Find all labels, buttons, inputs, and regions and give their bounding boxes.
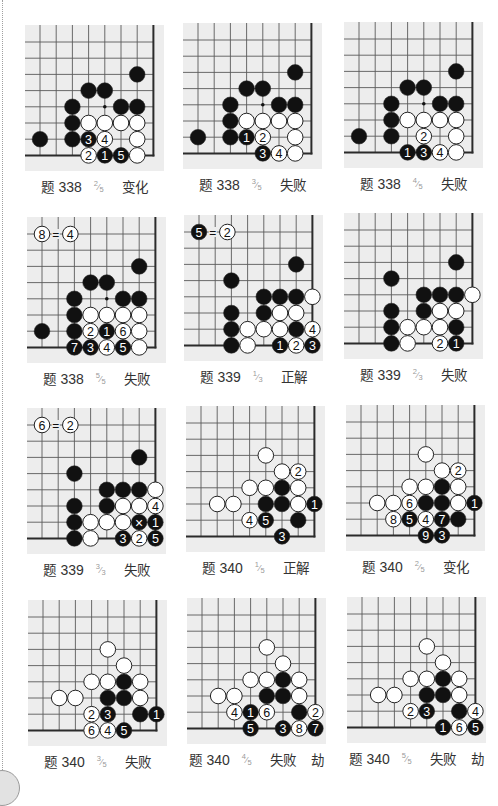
move-number: 2	[295, 465, 302, 479]
diagram-panel: 6=24×1325 题 339 3⁄3 失败	[27, 408, 166, 583]
diagram-caption: 题 340 4⁄5 失败 劫	[189, 751, 323, 769]
white-stone: 4	[418, 511, 434, 527]
white-stone	[450, 479, 466, 495]
equivalence-note: 8=4	[34, 226, 78, 242]
board-background	[187, 598, 326, 744]
white-stone	[432, 303, 448, 319]
problem-number: 338	[377, 175, 400, 193]
black-stone	[223, 97, 239, 113]
move-number: 3	[309, 339, 316, 353]
white-stone	[305, 289, 321, 305]
white-stone	[386, 495, 402, 511]
result-label: 失败	[124, 370, 150, 388]
black-stone	[132, 706, 148, 722]
white-stone: 2	[403, 703, 419, 719]
move-number: 1	[453, 337, 460, 351]
go-board: 21453	[186, 406, 325, 552]
black-stone	[65, 131, 81, 147]
diagram-caption: 题 339 3⁄3 失败	[43, 561, 149, 579]
move-number: 2	[293, 339, 300, 353]
black-stone	[451, 703, 467, 719]
black-stone	[131, 291, 147, 307]
move-number: 3	[420, 146, 427, 160]
diagram-caption: 题 338 4⁄5 失败	[360, 175, 466, 193]
move-number: 1	[103, 325, 110, 339]
diagram-panel: 34215 题 338 2⁄5 变化	[25, 25, 164, 200]
move-number: 8	[296, 722, 303, 736]
problem-number: 340	[61, 753, 84, 771]
white-stone: 4	[468, 703, 484, 719]
white-stone	[291, 688, 307, 704]
white-stone	[81, 115, 97, 131]
black-stone	[34, 323, 50, 339]
white-stone	[287, 129, 303, 145]
black-stone: 5	[116, 723, 132, 739]
move-number: 4	[67, 228, 74, 242]
go-board: 34215	[25, 25, 164, 171]
move-number: 5	[472, 721, 479, 735]
result-label: 失败	[125, 753, 151, 771]
white-stone	[239, 113, 255, 129]
move-number: 6	[120, 325, 127, 339]
problem-label: 题	[360, 175, 373, 193]
black-stone	[131, 259, 147, 275]
diagram-panel: 8=42167345 题 338 5⁄5 失败	[27, 217, 166, 392]
black-stone: 1	[239, 129, 255, 145]
move-number: 2	[224, 226, 231, 240]
white-stone: 4	[148, 498, 164, 514]
fraction-denominator: 5	[407, 753, 411, 771]
move-number: 5	[247, 722, 254, 736]
black-stone	[288, 257, 304, 273]
black-stone	[115, 482, 131, 498]
white-stone: 6	[451, 720, 467, 736]
black-stone	[67, 466, 83, 482]
white-stone	[271, 113, 287, 129]
go-board: 41625387	[187, 598, 326, 744]
go-board-svg: 6=24×1325	[27, 408, 166, 554]
variation-fraction: 2⁄5	[415, 558, 425, 576]
white-stone	[256, 321, 272, 337]
move-number: 4	[472, 705, 479, 719]
move-number: 1	[247, 706, 254, 720]
problem-number: 339	[217, 368, 240, 386]
black-stone: 3	[275, 721, 291, 737]
black-stone	[384, 96, 400, 112]
move-number: 4	[422, 513, 429, 527]
white-stone	[402, 479, 418, 495]
board-background	[347, 597, 486, 743]
white-stone	[131, 307, 147, 323]
go-board: 1234	[183, 23, 322, 169]
move-number: 4	[101, 133, 108, 147]
white-stone	[83, 307, 99, 323]
black-stone	[450, 511, 466, 527]
black-stone	[274, 480, 290, 496]
white-stone	[432, 319, 448, 335]
move-number: 3	[85, 133, 92, 147]
go-board-svg: 2134	[344, 22, 483, 168]
white-stone: 4	[242, 512, 258, 528]
black-stone	[223, 113, 239, 129]
black-stone	[129, 67, 145, 83]
problem-label: 题	[41, 178, 54, 196]
black-stone	[81, 83, 97, 99]
equals-sign: =	[209, 226, 216, 240]
black-stone: 1	[243, 704, 259, 720]
note-stone: 4	[63, 226, 79, 242]
black-stone	[290, 512, 306, 528]
black-stone	[287, 97, 303, 113]
white-stone: 4	[432, 145, 448, 161]
problem-number: 339	[60, 561, 83, 579]
fraction-denominator: 5	[101, 373, 105, 391]
move-number: 2	[136, 532, 143, 546]
white-stone	[434, 463, 450, 479]
white-stone	[416, 112, 432, 128]
diagram-panel: 5=24123 题 339 1⁄3 正解	[184, 215, 323, 390]
white-stone	[288, 305, 304, 321]
white-stone: 2	[255, 129, 271, 145]
white-stone	[243, 672, 259, 688]
fraction-numerator: 4	[413, 172, 417, 190]
variation-fraction: 3⁄5	[97, 753, 107, 771]
problem-label: 题	[43, 561, 56, 579]
black-stone	[67, 307, 83, 323]
move-number: 7	[439, 513, 446, 527]
